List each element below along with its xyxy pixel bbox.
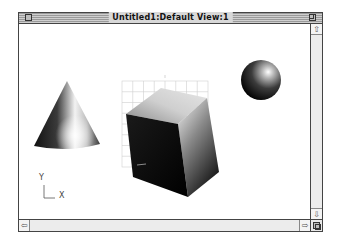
scroll-down-arrow-icon[interactable]: ⇩: [311, 208, 322, 219]
zoom-box[interactable]: [309, 14, 316, 21]
axis-y-label: Y: [39, 174, 44, 182]
document-window: Untitled1:Default View:1: [18, 12, 323, 232]
close-box[interactable]: [25, 14, 32, 21]
resize-grow-box[interactable]: [310, 219, 322, 231]
vertical-scrollbar[interactable]: ⇧ ⇩: [310, 24, 322, 219]
title-bar[interactable]: Untitled1:Default View:1: [19, 13, 322, 24]
viewport-3d[interactable]: Y X: [19, 24, 310, 219]
scroll-right-arrow-icon[interactable]: ⇨: [299, 220, 310, 231]
scroll-left-arrow-icon[interactable]: ⇦: [19, 220, 30, 231]
scroll-up-arrow-icon[interactable]: ⇧: [311, 24, 322, 35]
axis-indicator: [44, 185, 55, 198]
scene-canvas: [19, 24, 310, 219]
window-title: Untitled1:Default View:1: [108, 12, 232, 23]
cube-object: [126, 88, 219, 197]
cone-object: [34, 81, 100, 149]
horizontal-scrollbar[interactable]: ⇦ ⇨: [19, 219, 310, 231]
axis-x-label: X: [59, 192, 64, 200]
sphere-object: [241, 60, 281, 100]
